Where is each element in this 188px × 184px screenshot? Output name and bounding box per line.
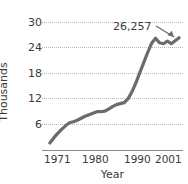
x-axis-title: Year	[42, 168, 183, 181]
line-chart: Thousands 30 24 18 12 6 26,257 1971 1980…	[0, 0, 188, 184]
x-tick-label-1990: 1990	[124, 153, 151, 165]
x-axis-rule	[42, 150, 183, 151]
x-tick-label-1980: 1980	[82, 153, 109, 165]
x-tick-label-2001: 2001	[155, 153, 182, 165]
x-tick-label-1971: 1971	[44, 153, 71, 165]
